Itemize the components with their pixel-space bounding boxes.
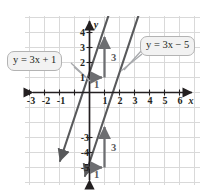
x-tick-label: 1: [103, 95, 108, 106]
graph-figure: -3 -2 -1 1 2 3 4 5 6 4 3 2 1 -3 -4 -5 x …: [0, 0, 215, 193]
x-axis-label: x: [188, 95, 194, 106]
x-tick-label: -2: [42, 95, 50, 106]
y-tick-label: -5: [81, 162, 89, 173]
y-tick-label: 4: [80, 27, 85, 38]
x-tick-label: 2: [118, 95, 123, 106]
rise-label-upper: 3: [111, 52, 116, 63]
equation-left-text: y = 3x + 1: [13, 54, 56, 65]
x-tick-label: 6: [178, 95, 183, 106]
x-tick-label: -3: [27, 95, 35, 106]
x-tick-label: 5: [163, 95, 168, 106]
run-label-upper: 1: [94, 79, 99, 90]
equation-callout-left: y = 3x + 1: [7, 51, 62, 71]
y-tick-label: 1: [80, 72, 85, 83]
y-tick-label: -4: [81, 147, 89, 158]
y-tick-label: -3: [81, 132, 89, 143]
rise-label-lower: 3: [111, 142, 116, 153]
run-label-lower: 1: [94, 169, 99, 180]
x-tick-label: 3: [133, 95, 138, 106]
equation-right-text: y = 3x − 5: [146, 39, 189, 50]
y-tick-label: 3: [80, 42, 85, 53]
y-axis-label: y: [93, 19, 99, 30]
coordinate-plane: -3 -2 -1 1 2 3 4 5 6 4 3 2 1 -3 -4 -5 x …: [0, 0, 215, 193]
x-tick-label: -1: [57, 95, 65, 106]
x-tick-label: 4: [148, 95, 153, 106]
y-tick-label: 2: [80, 57, 85, 68]
equation-callout-right: y = 3x − 5: [140, 36, 195, 56]
